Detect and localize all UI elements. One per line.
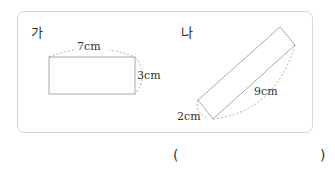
rectangle-a: [49, 57, 135, 94]
answer-open-paren: (: [173, 147, 178, 163]
length-label-b: 9cm: [254, 85, 278, 98]
answer-close-paren: ): [320, 147, 325, 163]
width-label-b: 2cm: [177, 110, 201, 123]
width-label-a: 7cm: [77, 40, 101, 53]
rectangle-b: [198, 27, 295, 119]
figures-drawing: 7cm 3cm 9cm 2cm: [0, 0, 335, 173]
height-label-a: 3cm: [137, 69, 161, 82]
